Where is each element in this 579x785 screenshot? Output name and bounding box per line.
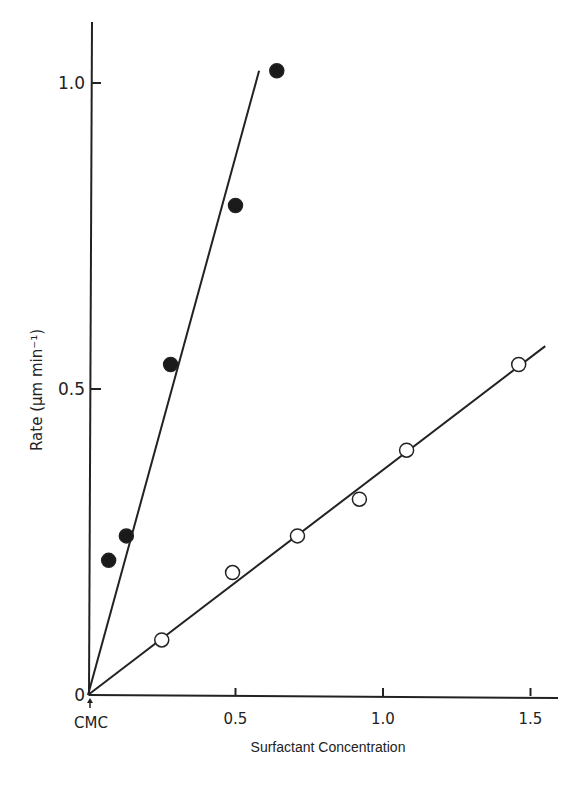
- open-data-point: [352, 492, 366, 506]
- fit-line: [88, 71, 259, 695]
- y-tick-label: 1.0: [58, 73, 85, 93]
- y-tick-label: 0.5: [58, 379, 85, 399]
- y-axis: [89, 22, 92, 695]
- open-data-point: [512, 358, 526, 372]
- axes: [89, 22, 558, 698]
- chart: CMC0.51.01.500.51.0 Rate (μm min⁻¹) Surf…: [0, 0, 579, 785]
- filled-data-point: [119, 529, 133, 543]
- x-tick-label: 0.5: [224, 710, 248, 728]
- open-data-point: [400, 443, 414, 457]
- x-axis: [89, 695, 558, 698]
- filled-data-point: [229, 198, 243, 212]
- x-tick-label: CMC: [74, 714, 108, 732]
- y-axis-label: Rate (μm min⁻¹): [28, 329, 46, 451]
- x-tick-label: 1.0: [371, 710, 395, 728]
- open-data-point: [226, 566, 240, 580]
- filled-data-point: [270, 64, 284, 78]
- open-data-point: [290, 529, 304, 543]
- x-tick-label: 1.5: [519, 710, 543, 728]
- fit-lines: [88, 71, 545, 695]
- data-points: [102, 64, 526, 647]
- filled-data-point: [164, 358, 178, 372]
- y-tick-label: 0: [74, 685, 85, 705]
- filled-data-point: [102, 553, 116, 567]
- open-data-point: [155, 633, 169, 647]
- x-axis-label: Surfactant Concentration: [251, 739, 406, 755]
